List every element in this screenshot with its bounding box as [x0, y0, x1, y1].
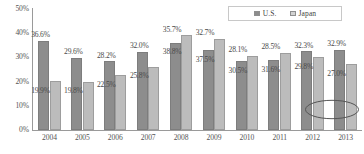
x-axis-tick: 2004 — [33, 134, 66, 142]
bar-us — [104, 61, 115, 130]
x-axis-tick: 2013 — [329, 134, 362, 142]
data-label-us: 28.1% — [229, 46, 248, 54]
bar-japan — [247, 56, 258, 130]
y-axis-tick: 0% — [19, 126, 29, 134]
bar-group: 36.6%19.9% — [33, 8, 66, 130]
plot-area: 36.6%19.9%29.6%19.8%28.2%22.5%32.0%25.8%… — [33, 8, 362, 130]
y-axis-tick: 10% — [15, 102, 29, 110]
data-label-japan: 31.6% — [262, 66, 281, 74]
bar-group: 32.3%29.8% — [296, 8, 329, 130]
bar-group: 28.5%31.6% — [263, 8, 296, 130]
data-label-us: 32.7% — [196, 29, 215, 37]
bar-group: 32.9%27.0% — [329, 8, 362, 130]
x-axis-tick: 2006 — [99, 134, 132, 142]
x-axis-tick: 2008 — [165, 134, 198, 142]
bar-japan — [346, 64, 357, 130]
bar-us — [334, 50, 345, 130]
data-label-us: 36.6% — [31, 31, 50, 39]
x-axis-tick: 2005 — [66, 134, 99, 142]
bar-japan — [83, 82, 94, 130]
data-label-japan: 29.8% — [294, 63, 313, 71]
bar-japan — [115, 75, 126, 130]
data-label-us: 28.2% — [97, 52, 116, 60]
bar-japan — [148, 67, 159, 130]
bar-group: 28.1%30.5% — [230, 8, 263, 130]
bar-group: 29.6%19.8% — [66, 8, 99, 130]
y-axis: 50% 40% 30% 20% 10% 0% — [0, 0, 31, 132]
x-axis-tick: 2009 — [198, 134, 231, 142]
data-label-us: 32.3% — [294, 42, 313, 50]
data-label-japan: 19.9% — [31, 87, 50, 95]
data-label-japan: 19.8% — [64, 87, 83, 95]
x-axis-tick: 2010 — [230, 134, 263, 142]
bar-japan — [280, 53, 291, 130]
data-label-us: 32.9% — [327, 40, 346, 48]
data-label-us: 35.7% — [163, 26, 182, 34]
bar-japan — [181, 35, 192, 130]
bar-japan — [313, 57, 324, 130]
y-axis-tick: 50% — [15, 5, 29, 13]
bar-group: 32.7%37.5% — [198, 8, 231, 130]
y-axis-tick: 40% — [15, 29, 29, 37]
x-axis-line — [32, 130, 362, 131]
bar-group: 35.7%38.8% — [165, 8, 198, 130]
data-label-japan: 30.5% — [229, 67, 248, 75]
bar-group: 32.0%25.8% — [132, 8, 165, 130]
bar-chart: U.S. Japan 50% 40% 30% 20% 10% 0% 36.6%1… — [0, 0, 364, 154]
x-axis: 2004200520062007200820092010201120122013 — [33, 133, 362, 147]
data-label-japan: 37.5% — [196, 56, 215, 64]
data-label-japan: 27.0% — [327, 70, 346, 78]
data-label-japan: 38.8% — [163, 48, 182, 56]
y-axis-tick: 20% — [15, 78, 29, 86]
data-label-japan: 25.8% — [130, 72, 149, 80]
y-axis-tick: 30% — [15, 53, 29, 61]
data-label-us: 29.6% — [64, 48, 83, 56]
data-label-japan: 22.5% — [97, 81, 116, 89]
x-axis-tick: 2007 — [132, 134, 165, 142]
data-label-us: 28.5% — [262, 43, 281, 51]
data-label-us: 32.0% — [130, 42, 149, 50]
x-axis-tick: 2012 — [296, 134, 329, 142]
bar-group: 28.2%22.5% — [99, 8, 132, 130]
bar-japan — [214, 39, 225, 131]
x-axis-tick: 2011 — [263, 134, 296, 142]
bar-japan — [50, 81, 61, 130]
bar-us — [137, 52, 148, 130]
